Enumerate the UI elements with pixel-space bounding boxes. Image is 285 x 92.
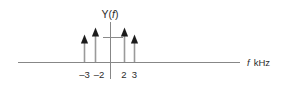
arrowhead-icon-minus-3 — [81, 35, 88, 44]
impulse-minus-2 — [92, 28, 99, 63]
x-axis-label-symbol: f — [247, 57, 251, 68]
arrowhead-icon-plus-2 — [121, 28, 128, 37]
plot-title: Y(f) — [102, 8, 119, 20]
impulse-plus-2 — [121, 28, 128, 63]
x-axis-label: fkHz — [247, 57, 270, 68]
tick-label-minus-3: –3 — [79, 69, 90, 80]
arrowhead-icon-minus-2 — [92, 28, 99, 37]
arrowhead-icon-plus-3 — [131, 35, 138, 44]
impulse-minus-3 — [81, 35, 88, 63]
tick-label-plus-3: 3 — [132, 69, 137, 80]
impulse-plus-3 — [131, 35, 138, 63]
frequency-spectrum-figure: Y(f) –3 –2 2 3 fkHz — [0, 0, 285, 92]
plot-title-main: Y( — [102, 8, 113, 20]
plot-title-close: ) — [115, 8, 119, 20]
tick-label-plus-2: 2 — [121, 69, 126, 80]
spectrum-plot-svg: Y(f) –3 –2 2 3 fkHz — [0, 0, 285, 92]
x-axis-label-unit: kHz — [254, 57, 271, 68]
tick-label-minus-2: –2 — [94, 69, 105, 80]
